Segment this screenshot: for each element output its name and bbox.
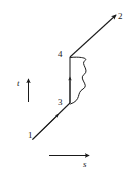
feynman-diagram-figure: 1 2 3 4 t s [0, 0, 132, 174]
arrowhead-1-to-3 [33, 115, 58, 139]
vertex-label-4: 4 [58, 50, 63, 59]
vertex-label-3: 3 [58, 98, 63, 107]
vertex-label-1: 1 [28, 131, 33, 140]
time-axis-label: t [17, 79, 20, 88]
segment-4-to-2 [70, 15, 116, 57]
segment-1-to-3 [33, 103, 71, 140]
arrowhead-4-to-2 [70, 15, 116, 57]
vertex-label-2: 2 [118, 12, 123, 21]
photon-wavy-line [71, 57, 86, 104]
space-axis-label: s [83, 160, 87, 169]
